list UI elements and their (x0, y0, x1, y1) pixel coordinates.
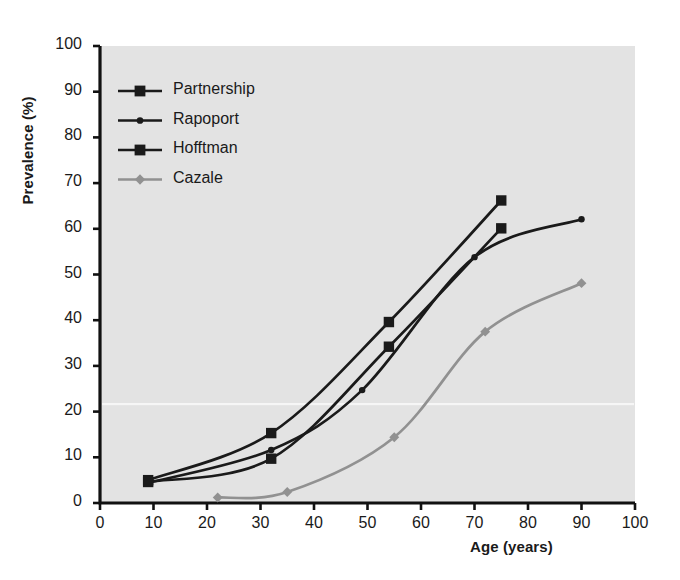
legend-label-partnership: Partnership (173, 80, 255, 98)
data-point-partnership-3 (496, 195, 506, 205)
data-point-rapoport-2 (359, 387, 365, 393)
prevalence-by-age-chart: Prevalence (%) Age (years) 0102030405060… (0, 0, 680, 580)
scanline-artifact (102, 403, 634, 405)
legend-label-rapoport: Rapoport (173, 110, 239, 128)
data-point-rapoport-1 (268, 447, 274, 453)
legend-label-hofftman: Hofftman (173, 139, 238, 157)
data-point-hofftman-2 (384, 342, 394, 352)
data-point-hofftman-3 (496, 223, 506, 233)
data-point-rapoport-4 (578, 216, 584, 222)
data-point-hofftman-1 (266, 453, 276, 463)
plot-canvas (0, 0, 680, 580)
data-point-partnership-1 (266, 428, 276, 438)
data-point-partnership-2 (384, 317, 394, 327)
data-point-hofftman-0 (143, 477, 153, 487)
legend-label-cazale: Cazale (173, 169, 223, 187)
